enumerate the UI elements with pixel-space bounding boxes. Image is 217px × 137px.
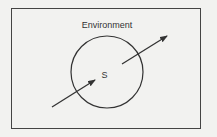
environment-label: Environment (82, 20, 133, 30)
system-environment-diagram: Environment S (0, 0, 217, 137)
system-label: S (101, 70, 107, 80)
output-arrow (122, 36, 167, 64)
